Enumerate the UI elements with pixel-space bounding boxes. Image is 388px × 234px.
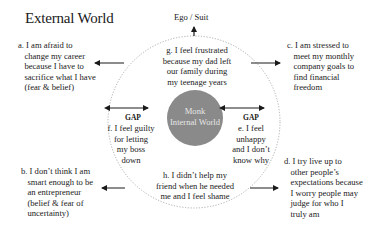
internal-item-h: h. I didn’t help my friend when he neede… <box>140 170 250 202</box>
gap-label-left: GAP <box>118 113 148 122</box>
gap-label-right: GAP <box>236 113 266 122</box>
external-item-c: c. I am stressed to meet my monthly comp… <box>287 40 354 93</box>
internal-item-e: e. I feel unhappy and I don’t know why <box>227 123 275 165</box>
internal-world-label: Monk Internal World <box>160 106 230 128</box>
internal-item-g: g. I feel frustrated because my dad left… <box>152 45 242 87</box>
external-item-a: a. I am afraid to change my career becau… <box>18 40 96 93</box>
diagram-title: External World <box>25 10 114 27</box>
internal-item-f: f. I feel guilty for letting my boss dow… <box>103 123 159 165</box>
internal-world-text: Internal World <box>160 117 230 128</box>
external-item-d: d. I try live up to other people’s expec… <box>284 156 363 220</box>
ego-suit-label: Ego / Suit <box>174 12 208 22</box>
monk-label: Monk <box>160 106 230 117</box>
external-item-b: b. I don’t think I am smart enough to be… <box>21 166 93 219</box>
